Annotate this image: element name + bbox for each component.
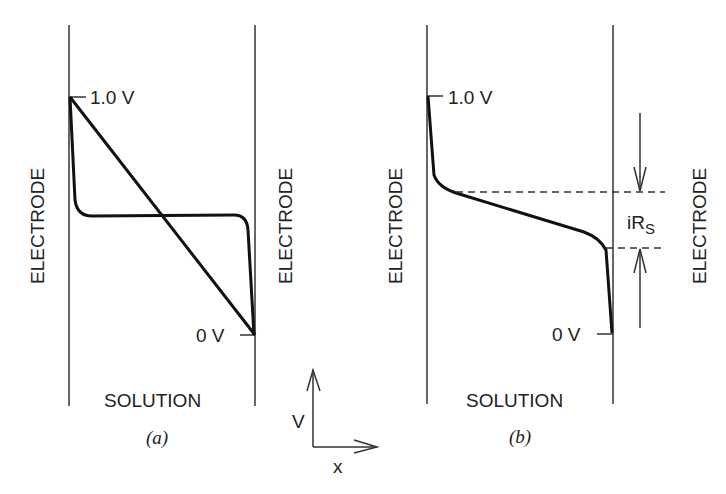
panel-b: 1.0 V 0 V iRS ELECTRODE ELECTRODE SOLUTI… — [385, 25, 710, 448]
potential-profile-diagram: 1.0 V 0 V ELECTRODE ELECTRODE SOLUTION (… — [0, 0, 726, 494]
label-1v-a: 1.0 V — [90, 87, 135, 108]
irs-label: iRS — [627, 212, 655, 237]
left-electrode-label-b: ELECTRODE — [385, 168, 406, 284]
axes-indicator: V x — [292, 370, 377, 477]
left-electrode-label-a: ELECTRODE — [27, 168, 48, 284]
solution-label-a: SOLUTION — [104, 390, 201, 411]
solution-label-b: SOLUTION — [466, 390, 563, 411]
label-0v-b: 0 V — [552, 324, 581, 345]
potential-curve-b — [428, 96, 612, 333]
label-0v-a: 0 V — [196, 325, 225, 346]
panel-a: 1.0 V 0 V ELECTRODE ELECTRODE SOLUTION (… — [27, 25, 296, 449]
right-electrode-label-a: ELECTRODE — [275, 168, 296, 284]
x-axis-label: x — [333, 456, 343, 477]
v-axis-label: V — [292, 411, 305, 432]
label-1v-b: 1.0 V — [448, 87, 493, 108]
right-electrode-label-b: ELECTRODE — [689, 168, 710, 284]
caption-a: (a) — [146, 427, 168, 449]
caption-b: (b) — [509, 426, 531, 448]
